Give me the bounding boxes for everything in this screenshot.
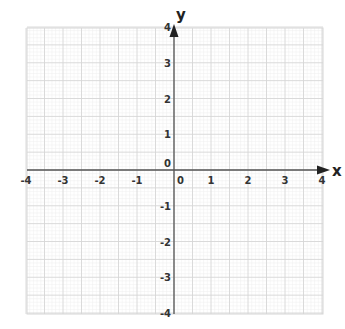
y-tick-label: -4 bbox=[160, 308, 171, 319]
coordinate-plane: x y -4-3-2-11234 -4-3-2-11234 0 0 bbox=[0, 0, 345, 329]
y-tick-label: -1 bbox=[160, 201, 171, 212]
x-tick-label: 3 bbox=[282, 175, 289, 186]
x-tick-label: -3 bbox=[57, 175, 68, 186]
y-tick-label: 2 bbox=[164, 94, 171, 105]
grid-border bbox=[27, 28, 323, 314]
y-tick-label: 4 bbox=[164, 22, 171, 33]
y-tick-label: 1 bbox=[164, 129, 171, 140]
y-tick-label: 3 bbox=[164, 58, 171, 69]
y-axis-label: y bbox=[176, 6, 186, 24]
x-axis-label: x bbox=[332, 162, 342, 180]
y-origin-label: 0 bbox=[164, 158, 171, 169]
x-tick-label: -1 bbox=[131, 175, 142, 186]
x-tick-label: 2 bbox=[245, 175, 252, 186]
x-tick-label: 4 bbox=[319, 175, 326, 186]
y-tick-label: -2 bbox=[160, 237, 171, 248]
x-origin-label: 0 bbox=[177, 175, 184, 186]
x-tick-label: -2 bbox=[94, 175, 105, 186]
x-tick-label: 1 bbox=[208, 175, 215, 186]
y-tick-label: -3 bbox=[160, 272, 171, 283]
grid-minor-lines bbox=[27, 28, 323, 314]
x-tick-label: -4 bbox=[20, 175, 31, 186]
